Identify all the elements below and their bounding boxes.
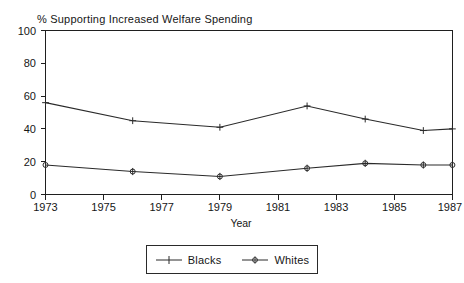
series-blacks: [42, 99, 456, 134]
legend: Blacks Whites: [146, 245, 318, 274]
legend-label-whites: Whites: [274, 254, 309, 266]
x-axis-label-1979: 1979: [208, 201, 232, 213]
data-point-blacks-1987: [449, 126, 456, 133]
y-axis-labels: 100 80 60 40 20 0: [18, 25, 36, 201]
x-axis-label-1985: 1985: [382, 201, 406, 213]
legend-entry-blacks: Blacks: [155, 254, 222, 266]
legend-entry-whites: Whites: [241, 254, 309, 266]
x-axis-label-1983: 1983: [324, 201, 348, 213]
x-axis-label-1973: 1973: [33, 201, 57, 213]
data-point-blacks-1973: [42, 99, 49, 106]
x-axis-labels: 1973 1975 1977 1979 1981 1983 1985 1987: [33, 201, 462, 213]
data-point-blacks-1976: [129, 117, 136, 124]
y-axis-label-40: 40: [24, 123, 36, 135]
x-axis-label-1981: 1981: [266, 201, 290, 213]
data-point-blacks-1986: [420, 127, 427, 134]
y-axis-label-0: 0: [30, 189, 36, 201]
y-axis-label-60: 60: [24, 90, 36, 102]
y-axis-ticks: [41, 31, 46, 195]
y-axis-label-80: 80: [24, 57, 36, 69]
series-line-blacks: [46, 103, 453, 131]
circle-marker-icon: [241, 254, 269, 266]
x-axis-label-1975: 1975: [91, 201, 115, 213]
x-axis-label-1987: 1987: [438, 201, 462, 213]
x-axis-title: Year: [230, 217, 252, 229]
y-axis-label-100: 100: [18, 25, 36, 37]
plus-marker-icon: [155, 254, 183, 266]
series-whites: [43, 160, 455, 180]
data-series-layer: [42, 99, 456, 180]
x-axis-label-1977: 1977: [149, 201, 173, 213]
series-line-whites: [46, 163, 453, 176]
x-axis-ticks: [46, 195, 453, 200]
plot-area: 100 80 60 40 20 0 1973 1975 1977 1979 19…: [0, 0, 464, 283]
data-point-blacks-1984: [362, 116, 369, 123]
data-point-blacks-1982: [304, 103, 311, 110]
legend-label-blacks: Blacks: [188, 254, 222, 266]
chart-container: % Supporting Increased Welfare Spending …: [0, 0, 464, 283]
y-axis-label-20: 20: [24, 156, 36, 168]
data-point-blacks-1979: [216, 124, 223, 131]
